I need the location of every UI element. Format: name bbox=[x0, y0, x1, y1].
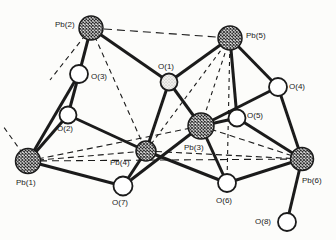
label-pb5: Pb(5) bbox=[246, 31, 266, 40]
label-pb1: Pb(1) bbox=[16, 178, 36, 187]
label-o6: O(6) bbox=[216, 196, 232, 205]
atom-pb6 bbox=[291, 148, 314, 171]
label-o7: O(7) bbox=[112, 198, 128, 207]
label-pb6: Pb(6) bbox=[302, 176, 322, 185]
atom-o8 bbox=[278, 213, 296, 231]
label-o8: O(8) bbox=[255, 217, 271, 226]
label-pb4: Pb(4) bbox=[110, 158, 130, 167]
atom-pb5 bbox=[218, 26, 242, 50]
atom-pb1 bbox=[16, 149, 41, 174]
label-o1: O(1) bbox=[158, 62, 174, 71]
atom-o7 bbox=[114, 177, 133, 196]
label-o5: O(5) bbox=[247, 111, 263, 120]
contact-Pb2-Pb5 bbox=[91, 28, 230, 38]
label-pb3: Pb(3) bbox=[184, 143, 204, 152]
atom-o2 bbox=[60, 107, 77, 124]
structure-svg: Pb(1)Pb(2)Pb(3)Pb(4)Pb(5)Pb(6)O(1)O(2)O(… bbox=[0, 0, 336, 240]
atom-o1 bbox=[161, 74, 178, 91]
structure-figure: Pb(1)Pb(2)Pb(3)Pb(4)Pb(5)Pb(6)O(1)O(2)O(… bbox=[0, 0, 336, 240]
label-o4: O(4) bbox=[289, 82, 305, 91]
atom-pb4 bbox=[136, 141, 156, 161]
atom-pb3 bbox=[188, 113, 214, 139]
atom-o5 bbox=[229, 110, 246, 127]
bond-O1-Pb4 bbox=[146, 82, 169, 151]
atom-pb2 bbox=[79, 16, 103, 40]
label-o2: O(2) bbox=[57, 124, 73, 133]
bond-O2-Pb4 bbox=[68, 115, 146, 151]
atom-o6 bbox=[218, 174, 236, 192]
bond-Pb1-O7 bbox=[28, 161, 123, 186]
label-o3: O(3) bbox=[91, 72, 107, 81]
atom-o3 bbox=[70, 65, 88, 83]
atom-o4 bbox=[269, 78, 287, 96]
label-pb2: Pb(2) bbox=[55, 20, 75, 29]
